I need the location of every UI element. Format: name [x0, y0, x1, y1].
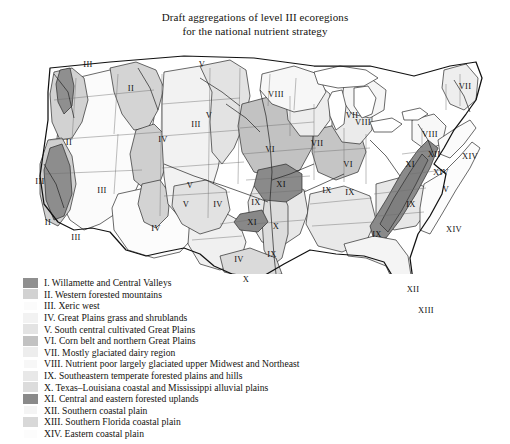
legend-label-x: X. Texas–Louisiana coastal and Mississip… — [44, 382, 268, 393]
legend-row-v: V. South central cultivated Great Plains — [23, 323, 483, 335]
legend-label-iii: III. Xeric west — [44, 300, 100, 311]
legend-label-ii: II. Western forested mountains — [44, 289, 162, 300]
legend-swatch-ix — [23, 371, 38, 381]
title-line-1: Draft aggregations of level III ecoregio… — [0, 10, 510, 24]
legend-label-viii: VIII. Nutrient poor largely glaciated up… — [44, 358, 299, 369]
legend-label-ix: IX. Southeastern temperate forested plai… — [44, 370, 242, 381]
legend-label-xiii: XIII. Southern Florida coastal plain — [44, 416, 181, 427]
legend-swatch-xi — [23, 394, 38, 404]
legend-row-xii: XII. Southern coastal plain — [23, 405, 483, 417]
legend-swatch-i — [23, 278, 38, 288]
figure-title: Draft aggregations of level III ecoregio… — [0, 10, 510, 38]
legend-swatch-vii — [23, 347, 38, 357]
legend-label-xii: XII. Southern coastal plain — [44, 405, 147, 416]
legend-label-v: V. South central cultivated Great Plains — [44, 324, 195, 335]
legend-swatch-v — [23, 324, 38, 334]
legend-label-iv: IV. Great Plains grass and shrublands — [44, 312, 187, 323]
legend-swatch-vi — [23, 336, 38, 346]
legend-row-iii: III. Xeric west — [23, 300, 483, 312]
legend-label-vii: VII. Mostly glaciated dairy region — [44, 347, 175, 358]
legend-swatch-xii — [23, 405, 38, 415]
lake-michigan — [328, 90, 346, 130]
legend-label-i: I. Willamette and Central Valleys — [44, 277, 171, 288]
legend-row-xi: XI. Central and eastern forested uplands — [23, 393, 483, 405]
united-states-map-svg: .b { stroke:#2a2a2a; stroke-width:0.7; s… — [14, 44, 500, 274]
region-xi-ozarks — [254, 164, 302, 202]
legend-row-ii: II. Western forested mountains — [23, 289, 483, 301]
map-regions — [40, 60, 480, 274]
legend-swatch-xiv — [23, 429, 38, 439]
ecoregion-legend: I. Willamette and Central ValleysII. Wes… — [23, 277, 483, 439]
legend-row-xiii: XIII. Southern Florida coastal plain — [23, 416, 483, 428]
legend-label-vi: VI. Corn belt and northern Great Plains — [44, 335, 196, 346]
legend-row-vii: VII. Mostly glaciated dairy region — [23, 347, 483, 359]
legend-label-xi: XI. Central and eastern forested uplands — [44, 393, 199, 404]
legend-row-xiv: XIV. Eastern coastal plain — [23, 428, 483, 440]
legend-swatch-iii — [23, 301, 38, 311]
map-container: .b { stroke:#2a2a2a; stroke-width:0.7; s… — [14, 44, 500, 274]
legend-swatch-ii — [23, 289, 38, 299]
legend-row-i: I. Willamette and Central Valleys — [23, 277, 483, 289]
legend-swatch-iv — [23, 313, 38, 323]
legend-swatch-xiii — [23, 417, 38, 427]
legend-row-ix: IX. Southeastern temperate forested plai… — [23, 370, 483, 382]
lake-erie — [370, 118, 402, 132]
legend-row-vi: VI. Corn belt and northern Great Plains — [23, 335, 483, 347]
legend-label-xiv: XIV. Eastern coastal plain — [44, 428, 144, 439]
legend-row-viii: VIII. Nutrient poor largely glaciated up… — [23, 358, 483, 370]
title-line-2: for the national nutrient strategy — [0, 24, 510, 38]
legend-swatch-x — [23, 382, 38, 392]
figure-page: Draft aggregations of level III ecoregio… — [0, 0, 510, 444]
legend-row-x: X. Texas–Louisiana coastal and Mississip… — [23, 381, 483, 393]
legend-swatch-viii — [23, 359, 38, 369]
legend-row-iv: IV. Great Plains grass and shrublands — [23, 312, 483, 324]
